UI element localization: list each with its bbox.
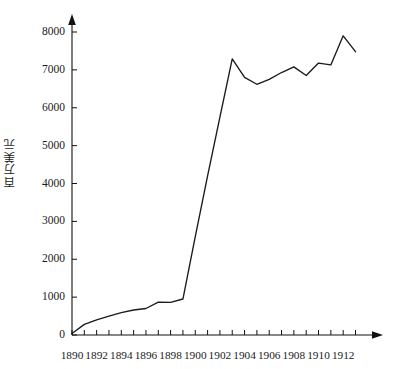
x-tick-label-1912: 1912 [327,350,359,361]
data-series-group [72,36,356,334]
series-line-百万美元 [72,36,356,334]
axes-group [68,14,383,339]
y-tick-label-3000: 3000 [25,215,65,227]
y-tick-label-0: 0 [25,329,65,341]
y-tick-label-4000: 4000 [25,178,65,190]
y-tick-label-5000: 5000 [25,140,65,152]
y-axis-arrow-icon [68,14,76,25]
x-tick-marks [72,330,356,335]
y-tick-label-8000: 8000 [25,26,65,38]
y-tick-label-2000: 2000 [25,253,65,265]
y-tick-label-1000: 1000 [25,291,65,303]
chart-container: 百万美元 010002000300040005000600070008000 1… [0,0,394,369]
y-tick-label-7000: 7000 [25,64,65,76]
y-tick-label-6000: 6000 [25,102,65,114]
x-axis-arrow-icon [372,331,383,339]
y-tick-marks [72,32,77,335]
